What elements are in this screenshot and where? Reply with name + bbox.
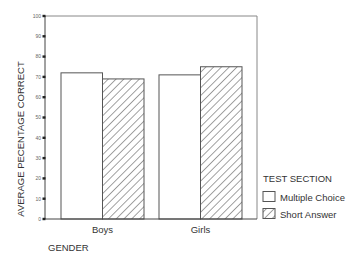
legend-label: Multiple Choice bbox=[280, 192, 345, 203]
y-tick-label: 70 bbox=[35, 74, 41, 80]
bar-girls-short-answer bbox=[201, 67, 243, 219]
y-tick-label: 80 bbox=[35, 53, 41, 59]
y-tick-mark bbox=[43, 76, 46, 78]
legend-title: TEST SECTION bbox=[263, 173, 332, 184]
category-label-boys: Boys bbox=[92, 224, 113, 235]
y-tick-label: 20 bbox=[35, 175, 41, 181]
y-tick-mark bbox=[43, 177, 46, 179]
y-tick-label: 10 bbox=[35, 196, 41, 202]
bars-group bbox=[61, 67, 242, 219]
y-tick-mark bbox=[43, 55, 46, 57]
legend: TEST SECTION Multiple Choice Short Answe… bbox=[263, 173, 345, 220]
legend-item-short-answer: Short Answer bbox=[263, 209, 337, 220]
y-tick-label: 40 bbox=[35, 135, 41, 141]
y-tick-mark bbox=[43, 15, 46, 17]
legend-swatch-hatched bbox=[263, 209, 275, 219]
x-axis-title: GENDER bbox=[48, 242, 89, 253]
y-axis-title: AVERAGE PECENTAGE CORRECT bbox=[15, 61, 26, 217]
y-tick-mark bbox=[43, 198, 46, 200]
category-label-girls: Girls bbox=[191, 224, 211, 235]
y-tick-mark bbox=[43, 157, 46, 159]
y-tick-mark bbox=[43, 35, 46, 37]
bar-girls-multiple-choice bbox=[159, 75, 201, 219]
y-tick-mark bbox=[43, 116, 46, 118]
y-tick-label: 90 bbox=[35, 33, 41, 39]
bar-chart: 0102030405060708090100 BoysGirls AVERAGE… bbox=[0, 0, 363, 261]
y-tick-label: 50 bbox=[35, 114, 41, 120]
y-tick-label: 60 bbox=[35, 94, 41, 100]
y-tick-label: 100 bbox=[33, 13, 42, 19]
y-tick-mark bbox=[43, 96, 46, 98]
bar-boys-short-answer bbox=[103, 79, 145, 219]
legend-label: Short Answer bbox=[280, 209, 337, 220]
y-tick-mark bbox=[43, 137, 46, 139]
y-axis: 0102030405060708090100 bbox=[33, 13, 46, 222]
legend-swatch-solid bbox=[263, 192, 275, 202]
y-tick-label: 30 bbox=[35, 155, 41, 161]
y-tick-label: 0 bbox=[38, 216, 41, 222]
category-labels: BoysGirls bbox=[92, 224, 211, 235]
legend-item-multiple-choice: Multiple Choice bbox=[263, 192, 345, 203]
bar-boys-multiple-choice bbox=[61, 73, 103, 219]
